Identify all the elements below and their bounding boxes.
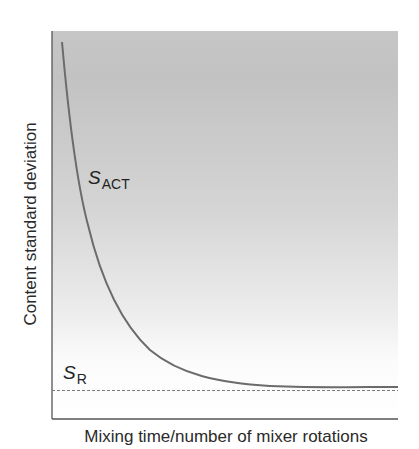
s-r-label: SR [63,362,87,387]
plot-background [52,31,398,419]
s-act-label: SACT [88,167,130,192]
s-act-label-main: S [88,167,101,188]
y-axis-label: Content standard deviation [21,122,41,325]
s-r-label-sub: R [77,371,87,387]
s-act-label-sub: ACT [102,176,130,192]
s-r-label-main: S [63,362,76,383]
x-axis-label: Mixing time/number of mixer rotations [54,427,398,447]
